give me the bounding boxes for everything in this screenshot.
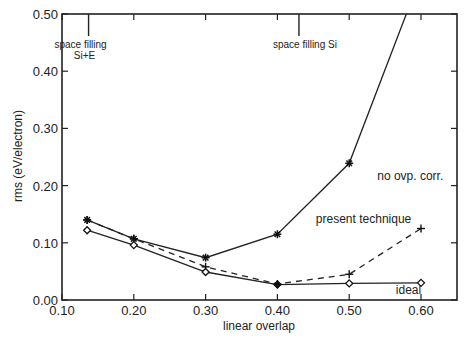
y-tick-label: 0.50	[33, 7, 58, 22]
series-line-present-technique	[87, 220, 421, 284]
x-tick-label: 0.20	[121, 303, 146, 318]
annotations: space fillingSi+Espace filling Si	[54, 14, 336, 61]
plot-frame	[62, 14, 457, 300]
series-label: present technique	[316, 212, 412, 226]
x-tick-label: 0.50	[337, 303, 362, 318]
y-axis-label: rms (eV/electron)	[11, 110, 25, 202]
y-tick-label: 0.40	[33, 64, 58, 79]
series-labels: no ovp. corr.present techniqueideal	[316, 169, 443, 297]
x-axis-label: linear overlap	[223, 319, 295, 333]
series-label: no ovp. corr.	[377, 169, 443, 183]
plus-marker	[345, 270, 353, 278]
series-lines	[87, 0, 421, 285]
y-tick-label: 0.00	[33, 293, 58, 308]
plot-border	[62, 14, 457, 300]
overlap-marker	[274, 281, 281, 288]
y-tick-label: 0.10	[33, 236, 58, 251]
asterisk-marker	[345, 159, 353, 167]
series-label: ideal	[396, 283, 421, 297]
diamond-marker	[346, 280, 353, 287]
y-tick-label: 0.20	[33, 179, 58, 194]
asterisk-marker	[202, 254, 210, 262]
y-tick-label: 0.30	[33, 121, 58, 136]
annotation-text: space filling Si	[273, 39, 337, 50]
x-tick-label: 0.60	[408, 303, 433, 318]
asterisk-marker	[273, 230, 281, 238]
diamond-marker	[130, 242, 137, 249]
diamond-marker	[202, 268, 209, 275]
plus-marker	[417, 225, 425, 233]
annotation-text: space filling	[54, 39, 106, 50]
annotation-text: Si+E	[74, 50, 96, 61]
diamond-marker	[84, 227, 91, 234]
chart: 0.100.200.300.400.500.60 0.000.100.200.3…	[0, 0, 467, 339]
y-axis: 0.000.100.200.300.400.50	[33, 7, 457, 308]
x-tick-label: 0.40	[265, 303, 290, 318]
x-tick-label: 0.30	[193, 303, 218, 318]
x-axis: 0.100.200.300.400.500.60	[49, 14, 433, 318]
